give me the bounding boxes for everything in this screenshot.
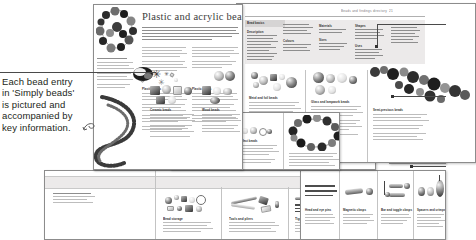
resin-bead-photo — [128, 59, 158, 83]
callout-curl-arrow — [82, 118, 98, 132]
callout-leader-line-lower-right — [412, 166, 446, 167]
caption-line-2: is pictured and — [2, 99, 94, 110]
panel-col-heading-4: Shapes — [355, 24, 366, 28]
bead-strand-photo — [93, 93, 146, 170]
bottom-right-heading-2: Bar and toggle clasps — [381, 208, 412, 212]
necklace-photo — [96, 7, 138, 53]
panel-col-heading-1: Colours — [283, 39, 294, 43]
lower-left-heading-1: Wood beads — [202, 108, 220, 112]
lower-left-content: Ceramic beads Wood beads — [146, 86, 242, 146]
upper-right-section-heading-2: Semi-precious beads — [373, 108, 403, 112]
panel-col-heading-3: Sizes — [319, 38, 327, 42]
bead-strand-illustration — [369, 66, 473, 106]
panel-col-heading-5: Uses — [355, 44, 362, 48]
callout-dot-upper — [375, 45, 378, 48]
bottom-section-heading-1: Tools and pliers — [229, 217, 253, 221]
caption-line-1: in 'Simply beads' — [2, 87, 94, 98]
upper-right-running-head: Beads and findings directory — [341, 10, 387, 14]
lower-left-heading-0: Ceramic beads — [150, 108, 171, 112]
page-spread-bottom-right[interactable]: Head and eye pins Magnetic clasps Bar an… — [300, 170, 446, 240]
page-title: Plastic and acrylic beads — [142, 11, 243, 22]
callout-leader-line-left — [0, 72, 156, 73]
upper-right-section-heading-0: Metal and foil beads — [249, 96, 278, 100]
bottom-section-heading-0: Bead storage — [163, 217, 183, 221]
callout-leader-line-upper-right — [377, 24, 446, 25]
beaded-bracelet-photo — [287, 115, 340, 151]
callout-leader-line-mid-right — [393, 96, 446, 97]
upper-right-section-heading-1: Glass and lampwork beads — [311, 100, 349, 104]
bead-basics-heading: Bead basics — [247, 21, 264, 25]
callout-dot-mid — [391, 95, 394, 98]
panel-col-heading-0: Description — [247, 30, 263, 34]
callout-caption: Each bead entry in 'Simply beads' is pic… — [2, 76, 94, 133]
callout-dot-lower — [410, 165, 413, 168]
caption-line-0: Each bead entry — [2, 76, 94, 87]
upper-right-page-number: 21 — [389, 10, 393, 14]
bottom-right-heading-1: Magnetic clasps — [343, 208, 366, 212]
caption-line-4: key information. — [2, 122, 94, 133]
callout-leader-vertical-upper — [377, 24, 378, 46]
caption-line-3: accompanied by — [2, 110, 94, 121]
bottom-right-heading-0: Head and eye pins — [305, 208, 331, 212]
bottom-right-heading-3: Spacers and crimps — [417, 208, 445, 212]
panel-col-heading-2: Materials — [319, 24, 332, 28]
star-bead-icon: ✳ — [164, 71, 169, 77]
